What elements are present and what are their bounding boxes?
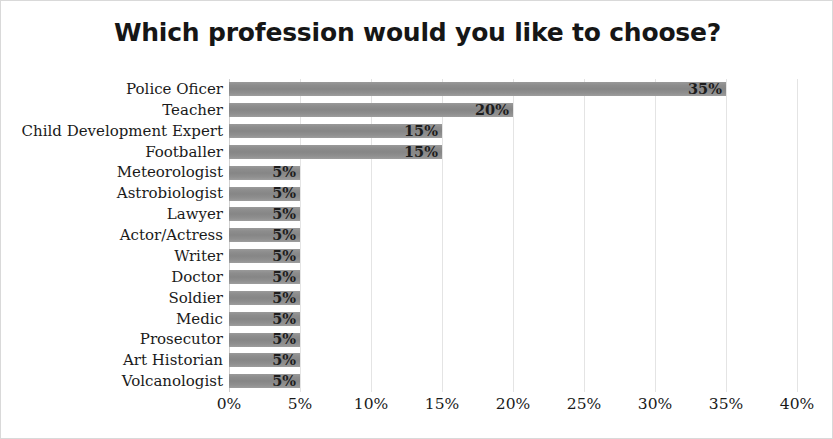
x-tick-10%: 10% <box>354 395 388 413</box>
bar-row[interactable]: 5% <box>229 246 797 267</box>
x-tick-40%: 40% <box>780 395 814 413</box>
bar-row[interactable]: 35% <box>229 79 797 100</box>
bar-value-label: 20% <box>469 101 509 119</box>
gridline-40% <box>797 79 798 392</box>
bar-value-label: 5% <box>256 184 296 202</box>
x-tick-25%: 25% <box>567 395 601 413</box>
bar-value-label: 5% <box>256 289 296 307</box>
x-tick-15%: 15% <box>425 395 459 413</box>
bar-value-label: 5% <box>256 351 296 369</box>
x-tick-5%: 5% <box>288 395 313 413</box>
bar[interactable] <box>229 82 726 96</box>
x-tick-20%: 20% <box>496 395 530 413</box>
category-label: Medic <box>176 309 223 330</box>
bar-row[interactable]: 5% <box>229 267 797 288</box>
bar-row[interactable]: 5% <box>229 225 797 246</box>
bar-value-label: 15% <box>398 143 438 161</box>
category-label: Lawyer <box>167 204 223 225</box>
bar-value-label: 5% <box>256 268 296 286</box>
bar-row[interactable]: 5% <box>229 309 797 330</box>
bar-value-label: 5% <box>256 163 296 181</box>
bar-row[interactable]: 5% <box>229 288 797 309</box>
category-label: Footballer <box>145 142 223 163</box>
x-tick-35%: 35% <box>709 395 743 413</box>
bar-row[interactable]: 15% <box>229 142 797 163</box>
chart-title: Which profession would you like to choos… <box>1 18 833 47</box>
x-tick-30%: 30% <box>638 395 672 413</box>
bar-value-label: 5% <box>256 372 296 390</box>
bar-row[interactable]: 5% <box>229 329 797 350</box>
category-label: Art Historian <box>123 350 223 371</box>
bar-value-label: 5% <box>256 310 296 328</box>
bar-row[interactable]: 5% <box>229 162 797 183</box>
category-label: Prosecutor <box>140 329 223 350</box>
bar-value-label: 15% <box>398 122 438 140</box>
category-label: Writer <box>174 246 223 267</box>
category-label: Actor/Actress <box>120 225 223 246</box>
category-label: Meteorologist <box>117 162 223 183</box>
plot-area: 35%20%15%15%5%5%5%5%5%5%5%5%5%5%5% <box>229 79 797 392</box>
category-label: Child Development Expert <box>22 121 223 142</box>
x-axis-tick-labels: 0%5%10%15%20%25%30%35%40% <box>229 395 797 425</box>
bar-value-label: 5% <box>256 330 296 348</box>
bar-row[interactable]: 5% <box>229 204 797 225</box>
bar-value-label: 35% <box>682 80 722 98</box>
bar-row[interactable]: 15% <box>229 121 797 142</box>
bar-value-label: 5% <box>256 226 296 244</box>
bar-value-label: 5% <box>256 205 296 223</box>
bar-row[interactable]: 20% <box>229 100 797 121</box>
bar-row[interactable]: 5% <box>229 183 797 204</box>
category-axis-labels: Police OficerTeacherChild Development Ex… <box>1 79 223 392</box>
category-label: Doctor <box>171 267 223 288</box>
bar-row[interactable]: 5% <box>229 350 797 371</box>
x-tick-0%: 0% <box>217 395 242 413</box>
category-label: Police Oficer <box>126 79 223 100</box>
category-label: Volcanologist <box>122 371 223 392</box>
category-label: Astrobiologist <box>117 183 223 204</box>
chart-container: Which profession would you like to choos… <box>0 0 833 439</box>
category-label: Teacher <box>162 100 223 121</box>
bar-value-label: 5% <box>256 247 296 265</box>
bar-row[interactable]: 5% <box>229 371 797 392</box>
category-label: Soldier <box>168 288 223 309</box>
